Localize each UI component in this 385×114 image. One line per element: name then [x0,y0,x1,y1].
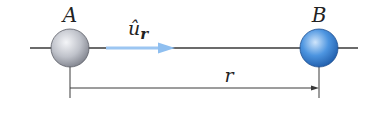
sphere-b [300,29,338,67]
distance-label: r [224,64,235,86]
unit-vector-subscript: r [140,25,149,43]
sphere-a [51,29,89,67]
distance-dimension-line [70,86,319,91]
diagram-canvas: A B ûr r [0,0,385,114]
label-b: B [311,3,327,27]
label-a: A [61,3,77,27]
unit-vector-arrow [106,43,175,54]
unit-vector-label: ûr [128,17,149,43]
unit-vector-symbol: û [128,17,140,39]
